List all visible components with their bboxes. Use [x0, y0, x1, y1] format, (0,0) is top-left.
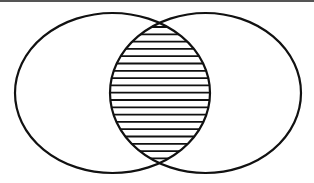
intersection-hatching: [0, 27, 314, 166]
venn-diagram: [0, 0, 314, 183]
